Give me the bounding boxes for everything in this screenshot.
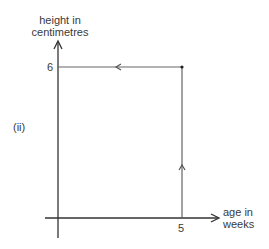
y-axis-label: height in centimetres [29,14,91,38]
x-axis-label-line1: age in [223,206,254,218]
y-axis-label-line1: height in [29,14,91,26]
part-label: (ii) [13,121,25,133]
x-axis-label-line2: weeks [223,218,254,230]
corner-point [180,65,183,68]
x-axis-label: age in weeks [223,206,254,230]
y-axis-label-line2: centimetres [29,26,91,38]
y-tick-label: 6 [47,61,53,73]
x-tick-label: 5 [178,222,184,234]
